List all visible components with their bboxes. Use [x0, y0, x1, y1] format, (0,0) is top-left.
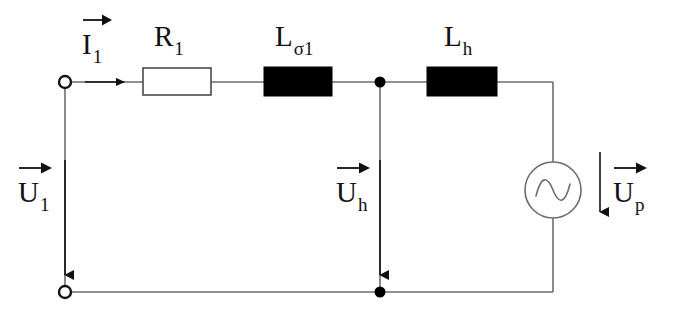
label-magnetizing-voltage: Uh	[336, 178, 366, 209]
label-input-voltage: U1	[18, 178, 48, 209]
label-induced-voltage-sub: p	[635, 194, 645, 215]
branch-direction-arrows	[65, 82, 600, 275]
terminal-bottom-left	[59, 286, 71, 298]
label-inductor-leakage-base: L	[275, 20, 293, 52]
label-input-current: I1	[82, 30, 101, 61]
component-ac-source	[525, 162, 581, 218]
node-bottom-middle	[375, 287, 386, 298]
label-resistor-sub: 1	[174, 38, 184, 59]
label-magnetizing-voltage-sub: h	[358, 194, 368, 215]
label-inductor-main-sub: h	[463, 38, 473, 59]
label-induced-voltage-base: U	[613, 176, 634, 208]
vector-arrow-icon	[613, 161, 647, 175]
vector-arrow-icon	[18, 161, 52, 175]
vector-arrow-icon	[82, 13, 112, 27]
label-input-voltage-base: U	[18, 176, 39, 208]
component-inductor-main	[427, 67, 497, 96]
label-inductor-leakage: Lσ1	[275, 22, 312, 53]
wires	[65, 82, 553, 292]
label-inductor-leakage-sub: σ1	[294, 38, 314, 59]
circuit-diagram: I1 R1 Lσ1 Lh U1 Uh Up	[0, 0, 673, 310]
label-input-current-base: I	[82, 28, 92, 60]
label-input-voltage-sub: 1	[40, 194, 50, 215]
label-resistor: R1	[154, 22, 183, 53]
label-resistor-base: R	[154, 20, 173, 52]
label-input-current-sub: 1	[93, 46, 103, 67]
vector-arrow-icon	[336, 161, 370, 175]
label-inductor-main-base: L	[444, 20, 462, 52]
label-inductor-main: Lh	[444, 22, 471, 53]
component-inductor-leakage	[264, 67, 332, 96]
label-induced-voltage: Up	[613, 178, 643, 209]
terminal-top-left	[59, 76, 71, 88]
node-top-middle	[375, 77, 386, 88]
component-resistor-r1	[143, 68, 211, 95]
label-magnetizing-voltage-base: U	[336, 176, 357, 208]
